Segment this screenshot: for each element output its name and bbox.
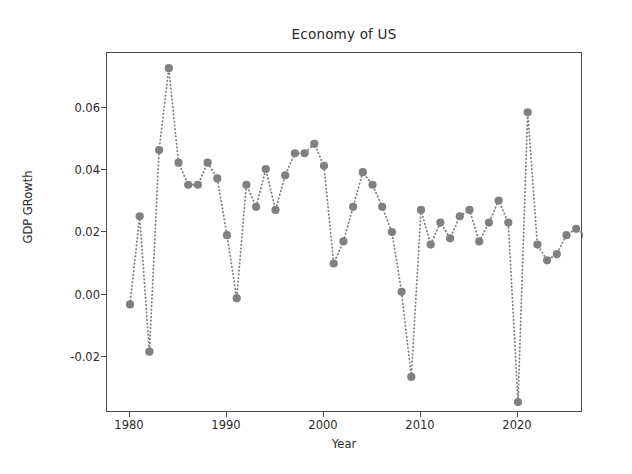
- data-point-marker: [543, 256, 551, 264]
- data-point-marker: [562, 231, 570, 239]
- data-point-marker: [281, 171, 289, 179]
- chart-figure: Economy of US 0.06 0.04 0.02 0.00 -0.02 …: [0, 0, 632, 474]
- x-tick-text: 2020: [502, 418, 531, 432]
- x-tick-label: 2010: [390, 418, 450, 432]
- data-point-marker: [504, 218, 512, 226]
- y-tick-text: 0.00: [74, 288, 100, 302]
- data-point-marker: [301, 149, 309, 157]
- y-tick-label: -0.02: [0, 350, 100, 364]
- data-point-marker: [475, 237, 483, 245]
- data-point-marker: [213, 174, 221, 182]
- data-point-marker: [126, 300, 134, 308]
- data-point-marker: [194, 181, 202, 189]
- y-tick-text: 0.06: [74, 101, 100, 115]
- y-tick-text: 0.04: [74, 163, 100, 177]
- data-point-marker: [398, 288, 406, 296]
- data-point-marker: [514, 398, 522, 406]
- data-point-marker: [252, 203, 260, 211]
- data-point-marker: [485, 218, 493, 226]
- data-point-marker: [174, 159, 182, 167]
- x-tick-text: 2010: [405, 418, 434, 432]
- plot-area: [106, 52, 582, 412]
- data-point-marker: [436, 218, 444, 226]
- data-point-marker: [204, 159, 212, 167]
- data-point-marker: [378, 203, 386, 211]
- y-tick-label: 0.04: [0, 163, 100, 177]
- x-tick-text: 1980: [114, 418, 143, 432]
- data-point-marker: [407, 373, 415, 381]
- x-tick-label: 2000: [293, 418, 353, 432]
- x-tick-label: 1990: [196, 418, 256, 432]
- data-point-marker: [184, 181, 192, 189]
- x-tick-text: 2000: [308, 418, 337, 432]
- data-point-marker: [465, 206, 473, 214]
- data-point-marker: [233, 294, 241, 302]
- data-point-marker: [271, 206, 279, 214]
- data-point-marker: [242, 181, 250, 189]
- x-axis-label: Year: [106, 437, 582, 451]
- series-plot: [107, 53, 583, 413]
- data-point-marker: [524, 108, 532, 116]
- data-point-marker: [427, 241, 435, 249]
- data-point-marker: [320, 162, 328, 170]
- data-point-marker: [155, 146, 163, 154]
- data-point-marker: [310, 140, 318, 148]
- data-point-marker: [349, 203, 357, 211]
- data-point-marker: [456, 212, 464, 220]
- data-point-marker: [145, 348, 153, 356]
- gdp-growth-series: [126, 64, 583, 406]
- y-tick-text: 0.02: [74, 225, 100, 239]
- data-point-marker: [339, 237, 347, 245]
- y-tick-label: 0.02: [0, 225, 100, 239]
- data-point-marker: [223, 231, 231, 239]
- data-point-marker: [417, 206, 425, 214]
- y-tick-text: -0.02: [70, 350, 100, 364]
- y-axis-label: GDP GRowth: [21, 117, 35, 297]
- data-point-marker: [368, 181, 376, 189]
- chart-title: Economy of US: [106, 26, 582, 42]
- data-point-marker: [291, 149, 299, 157]
- series-line: [130, 68, 583, 402]
- data-point-marker: [553, 250, 561, 258]
- data-point-marker: [572, 225, 580, 233]
- y-tick-label: 0.06: [0, 101, 100, 115]
- x-tick-text: 1990: [211, 418, 240, 432]
- data-point-marker: [359, 168, 367, 176]
- y-tick-label: 0.00: [0, 288, 100, 302]
- data-point-marker: [388, 228, 396, 236]
- data-point-marker: [136, 212, 144, 220]
- x-tick-label: 1980: [99, 418, 159, 432]
- data-point-marker: [446, 234, 454, 242]
- data-point-marker: [330, 259, 338, 267]
- data-point-marker: [262, 165, 270, 173]
- data-point-marker: [165, 64, 173, 72]
- data-point-marker: [495, 196, 503, 204]
- x-tick-label: 2020: [487, 418, 547, 432]
- data-point-marker: [533, 241, 541, 249]
